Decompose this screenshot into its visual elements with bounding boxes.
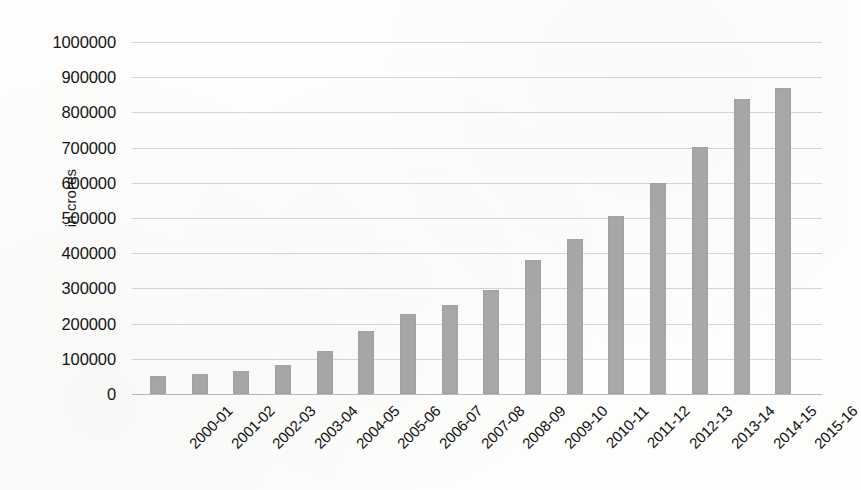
x-tick-label: 2000-01 [186, 402, 236, 452]
x-tick-label: 2010-11 [602, 402, 651, 451]
x-tick-label: 2002-03 [269, 402, 319, 452]
x-tick-label: 2013-14 [728, 402, 778, 452]
y-tick-label: 300000 [0, 279, 124, 298]
bar [150, 376, 166, 394]
x-tick-label: 2003-04 [311, 402, 361, 452]
bar [400, 314, 416, 394]
bar [233, 371, 249, 394]
y-tick-label: 200000 [0, 314, 124, 333]
bar [442, 305, 458, 394]
y-tick-label: 500000 [0, 209, 124, 228]
y-tick-label: 700000 [0, 138, 124, 157]
x-tick-label: 2011-12 [644, 402, 693, 451]
y-tick-label: 100000 [0, 349, 124, 368]
bar [192, 374, 208, 394]
x-tick-label: 2015-16 [811, 402, 861, 452]
bar [650, 183, 666, 394]
bar [317, 351, 333, 394]
x-tick-label: 2001-02 [227, 402, 277, 452]
y-tick-label: 900000 [0, 68, 124, 87]
bar [692, 147, 708, 394]
bar [734, 99, 750, 394]
x-tick-label: 2008-09 [519, 402, 569, 452]
x-tick-label: 2009-10 [561, 402, 611, 452]
x-tick-label: 2006-07 [436, 402, 486, 452]
x-tick-label: 2012-13 [686, 402, 736, 452]
x-tick-label: 2014-15 [769, 402, 819, 452]
x-tick-label: 2007-08 [477, 402, 527, 452]
bars-layer [132, 42, 822, 394]
bar [275, 365, 291, 394]
y-tick-label: 400000 [0, 244, 124, 263]
bar [567, 239, 583, 394]
bar [358, 331, 374, 394]
bar [483, 290, 499, 394]
y-axis-tick-labels: 0100000200000300000400000500000600000700… [0, 0, 124, 490]
bar [608, 216, 624, 394]
x-axis-tick-labels: 2000-012001-022002-032003-042004-052005-… [132, 396, 822, 490]
x-tick-label: 2005-06 [394, 402, 444, 452]
bar [775, 88, 791, 394]
y-tick-label: 0 [0, 385, 124, 404]
y-tick-label: 600000 [0, 173, 124, 192]
x-axis-line [132, 394, 822, 395]
x-tick-label: 2004-05 [352, 402, 402, 452]
y-tick-label: 1000000 [0, 33, 124, 52]
bar [525, 260, 541, 394]
y-tick-label: 800000 [0, 103, 124, 122]
plot-area [132, 42, 822, 394]
